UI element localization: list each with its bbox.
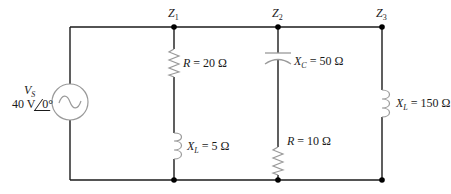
source-magnitude: 40 V xyxy=(12,97,35,111)
inductor-icon xyxy=(382,90,390,117)
source-value-label: 40 V 0° xyxy=(12,98,54,111)
inductor-icon xyxy=(174,133,182,159)
node-label-z1: Z1 xyxy=(168,7,179,22)
z1-inductor-label: XL = 5 Ω xyxy=(187,140,229,155)
resistor-icon xyxy=(273,147,283,175)
component-value: = 5 Ω xyxy=(199,139,230,153)
node-label-z2: Z2 xyxy=(272,7,283,22)
wires xyxy=(70,27,382,180)
component-value: = 20 Ω xyxy=(190,56,227,70)
node-dot xyxy=(379,24,385,30)
node-label-main: Z xyxy=(272,6,279,20)
component-value: = 10 Ω xyxy=(294,134,331,148)
resistor-icon xyxy=(169,49,179,77)
node-label-main: Z xyxy=(376,6,383,20)
node-dot xyxy=(171,177,177,183)
node-label-z3: Z3 xyxy=(376,7,387,22)
z1-resistor-label: R = 20 Ω xyxy=(183,57,227,69)
node-dot xyxy=(275,24,281,30)
node-dot xyxy=(379,177,385,183)
ac-source-icon xyxy=(52,84,88,120)
component-value: = 150 Ω xyxy=(408,96,451,110)
z2-resistor-label: R = 10 Ω xyxy=(287,135,331,147)
component-value: = 50 Ω xyxy=(307,54,344,68)
circuit-diagram xyxy=(0,0,451,194)
source-angle-value: 0° xyxy=(43,99,54,110)
node-label-main: Z xyxy=(168,6,175,20)
z3-inductor-label: XL = 150 Ω xyxy=(396,97,450,112)
node-dot xyxy=(171,24,177,30)
node-label-sub: 3 xyxy=(383,13,387,22)
node-label-sub: 2 xyxy=(279,13,283,22)
node-label-sub: 1 xyxy=(175,13,179,22)
z2-capacitor-label: XC = 50 Ω xyxy=(294,55,343,70)
node-dot xyxy=(275,177,281,183)
